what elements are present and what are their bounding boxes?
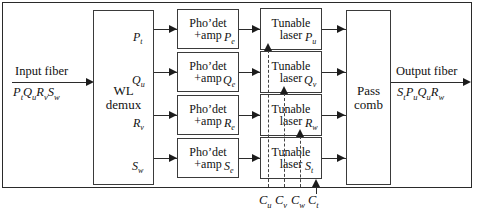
control-label-cu: Cu <box>259 193 271 210</box>
row2-laser-out-arrow <box>337 68 345 76</box>
row1-laser-out-arrow <box>337 25 345 33</box>
control-arrow-cw <box>296 129 304 137</box>
control-line-cu[interactable] <box>268 50 269 187</box>
row4-demux-out-arrow <box>169 154 177 162</box>
row1-detector-out-label: Pe <box>224 30 235 46</box>
row3-detector-line2: +amp <box>194 115 221 127</box>
row4-laser-out-label: St <box>305 159 313 175</box>
output-fiber-label: Output fiber <box>396 64 457 79</box>
row1-detector-line2: +amp <box>194 29 221 41</box>
row3-laser-out-label: Rw <box>305 116 318 132</box>
control-line-cw[interactable] <box>300 136 301 187</box>
row3-detector-out-label: Re <box>224 116 235 132</box>
wl-demux-box[interactable]: WL demux <box>93 10 154 185</box>
row2-laser-out-label: Qv <box>304 73 316 89</box>
control-label-cv: Cv <box>275 193 287 210</box>
control-label-ct: Ct <box>308 193 318 210</box>
row4-laser-out-arrow <box>337 154 345 162</box>
wl-demux-label-line2: demux <box>106 98 141 112</box>
control-label-cw: Cw <box>291 193 305 210</box>
input-fiber-channels: PtQuRvSw <box>13 85 60 102</box>
control-arrow-cv <box>280 86 288 94</box>
input-fiber-line <box>12 82 90 83</box>
row2-detector-out-arrow <box>252 68 260 76</box>
control-line-cv[interactable] <box>284 93 285 187</box>
wl-demux-label-line1: WL <box>113 84 133 98</box>
row3-detector-out-arrow <box>252 111 260 119</box>
row1-detector-out-arrow <box>252 25 260 33</box>
row2-demux-out-label: Qu <box>132 73 145 89</box>
row4-demux-out-label: Sw <box>132 159 143 175</box>
output-fiber-line <box>391 82 467 83</box>
control-arrow-cu <box>264 43 272 51</box>
row4-detector-line2: +amp <box>194 158 221 170</box>
row2-detector-out-label: Qe <box>223 73 235 89</box>
row4-detector-out-arrow <box>252 154 260 162</box>
control-arrow-ct <box>312 179 320 187</box>
output-fiber-arrowhead <box>463 78 471 86</box>
pass-comb-box[interactable]: Pass comb <box>346 10 391 185</box>
row3-demux-out-arrow <box>169 111 177 119</box>
row2-detector-line2: +amp <box>194 72 221 84</box>
row2-laser-line2: laser <box>280 72 303 84</box>
row4-detector-out-label: Se <box>224 159 234 175</box>
pass-comb-label-line2: comb <box>354 98 383 112</box>
output-fiber-channels: StPuQuRw <box>397 85 444 102</box>
row1-demux-out-label: Pt <box>133 30 143 46</box>
row2-demux-out-arrow <box>169 68 177 76</box>
row3-laser-out-arrow <box>337 111 345 119</box>
row1-laser-line2: laser <box>280 29 303 41</box>
row1-demux-out-arrow <box>169 25 177 33</box>
input-fiber-label: Input fiber <box>15 64 68 79</box>
row1-laser-out-label: Pu <box>305 30 316 46</box>
row3-demux-out-label: Rv <box>133 116 144 132</box>
pass-comb-label-line1: Pass <box>357 84 380 98</box>
diagram-canvas: Input fiber PtQuRvSw WL demux Pt Pho’det… <box>0 0 478 213</box>
